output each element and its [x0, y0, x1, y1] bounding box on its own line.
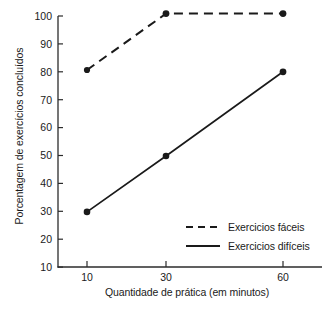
series-markers-exercicios-faceis [84, 10, 287, 73]
legend-label-exercicios-dificeis: Exercicios difíceis [228, 240, 310, 252]
legend-label-exercicios-faceis: Exercicios fáceis [228, 221, 305, 233]
plot-area [0, 0, 330, 310]
line-chart: Porcentagem de exercícios concluídos Qua… [0, 0, 330, 310]
y-tick-marks [58, 16, 63, 267]
series-line-exercicios-dificeis [87, 72, 283, 212]
series-line-exercicios-faceis [87, 14, 283, 70]
x-tick-marks [87, 261, 283, 267]
